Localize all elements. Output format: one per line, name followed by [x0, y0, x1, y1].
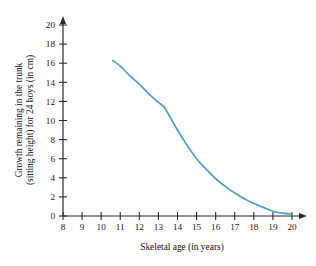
x-axis-arrow-icon: [299, 213, 307, 219]
y-tick-label: 12: [46, 97, 56, 107]
y-axis-group: 02468101214161820: [46, 16, 67, 221]
chart-svg: 02468101214161820 8910111213141516171819…: [0, 0, 316, 266]
x-tick-label: 12: [135, 222, 145, 232]
x-tick-label: 13: [154, 222, 164, 232]
x-tick-group: 891011121314151617181920: [61, 212, 297, 232]
x-tick-label: 8: [61, 222, 66, 232]
x-tick-label: 15: [192, 222, 202, 232]
x-axis-group: 891011121314151617181920: [61, 212, 307, 232]
x-tick-label: 17: [230, 222, 240, 232]
y-axis-title-line2: (sitting height) for 24 boys (in cm): [25, 55, 36, 185]
y-axis-title-group: Growth remaining in the trunk (sitting h…: [14, 55, 36, 185]
y-tick-label: 20: [46, 20, 56, 30]
x-tick-label: 14: [173, 222, 183, 232]
x-tick-label: 11: [116, 222, 125, 232]
x-tick-label: 19: [268, 222, 278, 232]
chart-figure: 02468101214161820 8910111213141516171819…: [0, 0, 316, 266]
y-tick-label: 14: [46, 78, 56, 88]
y-axis-arrow-icon: [60, 16, 66, 24]
x-axis-title: Skeletal age (in years): [140, 242, 224, 253]
y-tick-label: 6: [50, 154, 55, 164]
y-tick-label: 10: [46, 116, 56, 126]
x-tick-label: 16: [211, 222, 221, 232]
y-tick-label: 18: [46, 39, 56, 49]
y-tick-label: 0: [50, 211, 55, 221]
y-tick-label: 8: [50, 135, 55, 145]
y-tick-label: 16: [46, 58, 56, 68]
x-tick-label: 9: [80, 222, 85, 232]
y-tick-label: 4: [50, 173, 55, 183]
y-axis-title-line1: Growth remaining in the trunk: [14, 62, 24, 177]
y-tick-group: 02468101214161820: [46, 20, 67, 221]
y-tick-label: 2: [50, 192, 55, 202]
x-tick-label: 20: [287, 222, 297, 232]
data-curve-growth-remaining: [113, 60, 292, 214]
x-tick-label: 18: [249, 222, 259, 232]
x-tick-label: 10: [97, 222, 107, 232]
